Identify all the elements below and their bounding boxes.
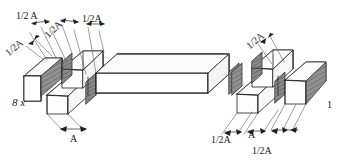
quantity-label-left: 8 x [12, 97, 25, 108]
quantity-label-right: 1 [327, 100, 332, 110]
dimension-label-right-bottom-a: 1/2A [211, 135, 231, 145]
dimension-label-left-top-a: 1/2 A [16, 11, 37, 21]
dimension-label-right-bottom-c: 1/2A [252, 146, 272, 156]
right-block-cluster [229, 50, 326, 113]
left-block-cluster [24, 51, 103, 114]
dimension-label-right-bottom-b: A [248, 130, 255, 140]
dimension-label-left-top-c: 1/2A [82, 14, 102, 24]
dimension-label-left-bottom-a: A [70, 134, 77, 144]
dimension-arrows-left-side [28, 35, 40, 45]
dimension-arrows-bottom-right [224, 127, 297, 136]
diagram-canvas: 1/2 A 1/2A 1/2A 1/2A 8 x A 1/2A 1 1/2A A… [0, 0, 345, 163]
center-beam [96, 54, 229, 93]
